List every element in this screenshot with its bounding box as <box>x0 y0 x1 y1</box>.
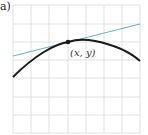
tangent-line-figure: a) (x, y) <box>0 0 148 135</box>
grid <box>13 5 140 133</box>
point-label: (x, y) <box>70 47 95 58</box>
graph <box>0 0 148 135</box>
point-of-tangency <box>66 40 71 45</box>
panel-label: a) <box>0 1 11 13</box>
curve <box>13 40 140 77</box>
